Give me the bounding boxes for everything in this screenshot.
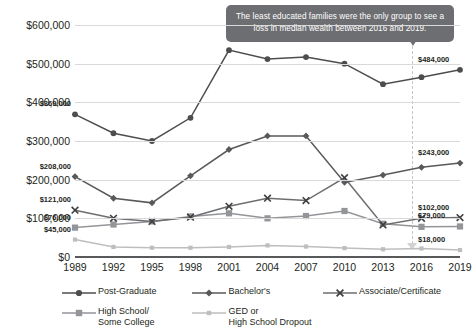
y-axis-tick-label: $200,000 [0,174,70,186]
gridline [75,25,460,26]
chart-legend: Post-Graduate Bachelor's Associate/Certi… [60,286,460,330]
legend-label: High School/ Some College [98,306,155,329]
gridline [75,102,460,103]
x-axis-tick-label: 2007 [294,261,317,273]
legend-x-marker-icon [321,287,359,299]
x-axis-tick-label: 2016 [410,261,433,273]
y-axis-tick-label: $600,000 [0,19,70,31]
series-post-graduate [72,47,463,144]
legend-circle-marker-icon [60,287,98,299]
legend-small-square-marker-icon [190,307,228,319]
y-axis-tick-label: $500,000 [0,58,70,70]
data-point-label-end: $243,000 [418,148,449,157]
data-point-label-end: $18,000 [418,235,445,244]
data-point-label-start: $76,000 [44,212,71,221]
data-point-label-end: $484,000 [418,54,449,63]
series-ged-or [73,238,462,253]
x-axis-line [75,256,460,258]
legend-item-post-graduate[interactable]: Post-Graduate [60,286,190,299]
x-axis-tick-label: 2001 [217,261,240,273]
gridline [75,141,460,142]
x-axis-tick-label: 1989 [63,261,86,273]
legend-item-bachelors[interactable]: Bachelor's [190,286,320,299]
legend-diamond-marker-icon [190,287,228,299]
data-point-label-end: $102,000 [418,202,449,211]
data-point-label-start: $45,000 [44,224,71,233]
data-point-label-start: $369,000 [40,99,71,108]
legend-label: Post-Graduate [98,286,157,297]
series-bachelor-s [72,133,464,207]
legend-label: GED or High School Dropout [228,306,311,329]
x-axis-tick-label: 2013 [371,261,394,273]
gridline [75,180,460,181]
data-point-label-start: $121,000 [40,195,71,204]
x-axis-tick-label: 2019 [448,261,471,273]
x-axis-tick-label: 2010 [333,261,356,273]
data-point-label-start: $208,000 [40,161,71,170]
y-axis-tick-label: $0 [0,251,70,263]
x-axis-tick-label: 1995 [140,261,163,273]
x-axis-tick-label: 1992 [102,261,125,273]
legend-item-associate-certificate[interactable]: Associate/Certificate [321,286,460,299]
plot-area: $0$100,000$200,000$300,000$400,000$500,0… [75,25,460,257]
legend-square-marker-icon [60,307,98,319]
legend-item-high-school-some-college[interactable]: High School/ Some College [60,306,190,329]
x-axis-tick-label: 1998 [179,261,202,273]
gridline [75,64,460,65]
gridline [75,218,460,219]
legend-item-ged-high-school-dropout[interactable]: GED or High School Dropout [190,306,320,329]
data-point-label-end: $79,000 [418,211,445,220]
legend-label: Associate/Certificate [359,286,441,297]
y-axis-tick-label: $300,000 [0,135,70,147]
legend-label: Bachelor's [228,286,270,297]
x-axis-tick-label: 2004 [256,261,279,273]
